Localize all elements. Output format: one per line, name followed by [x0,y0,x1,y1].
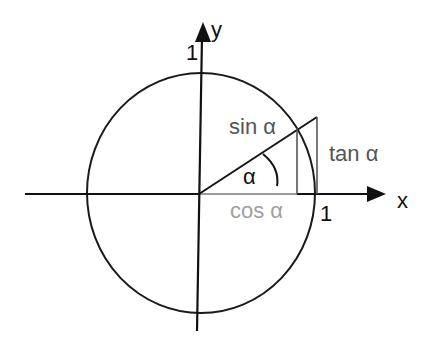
x-axis-arrow-icon [367,186,386,202]
y-axis-label: y [211,17,222,42]
sin-label: sin α [229,114,276,139]
angle-label: α [243,164,256,189]
tan-label: tan α [329,141,379,166]
y-axis-arrow-icon [195,22,211,42]
angle-arc [263,154,277,186]
y-axis [197,36,202,331]
unit-circle-diagram: y 1 x 1 sin α tan α cos α α [0,0,434,344]
x-unit-label: 1 [320,201,332,226]
x-axis-label: x [397,188,408,213]
diagram-canvas: y 1 x 1 sin α tan α cos α α [0,0,434,344]
y-unit-label: 1 [186,40,198,65]
cos-label: cos α [230,198,283,223]
